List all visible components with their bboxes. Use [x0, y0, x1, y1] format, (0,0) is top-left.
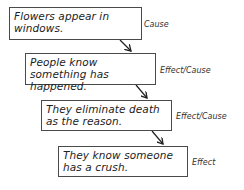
- step-role-label: Cause: [144, 20, 169, 29]
- arrow-down-right-icon: [120, 40, 131, 51]
- arrow-down-right-icon: [136, 85, 147, 98]
- step-text: They eliminate death as the reason.: [46, 103, 160, 127]
- step-box-1: Flowers appear in windows.: [9, 7, 142, 40]
- step-box-4: They know someone has a crush.: [58, 146, 188, 177]
- step-text: Flowers appear in windows.: [14, 10, 109, 34]
- arrow-down-right-icon: [152, 131, 163, 144]
- step-role-label: Effect: [192, 158, 215, 167]
- step-box-3: They eliminate death as the reason.: [41, 100, 172, 131]
- step-role-label: Effect/Cause: [176, 112, 227, 121]
- step-box-2: People know something has happened.: [25, 53, 156, 85]
- step-role-label: Effect/Cause: [160, 66, 211, 75]
- step-text: They know someone has a crush.: [63, 149, 173, 173]
